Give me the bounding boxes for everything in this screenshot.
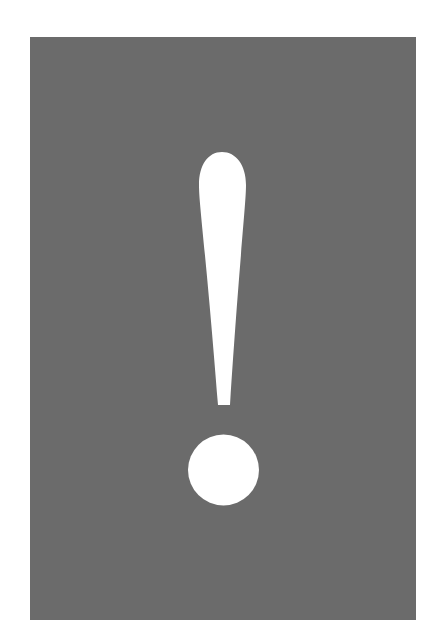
exclamation-dot — [188, 435, 259, 506]
warning-panel: ! — [30, 37, 416, 620]
exclamation-stem — [199, 152, 246, 405]
exclamation-icon — [30, 37, 416, 620]
